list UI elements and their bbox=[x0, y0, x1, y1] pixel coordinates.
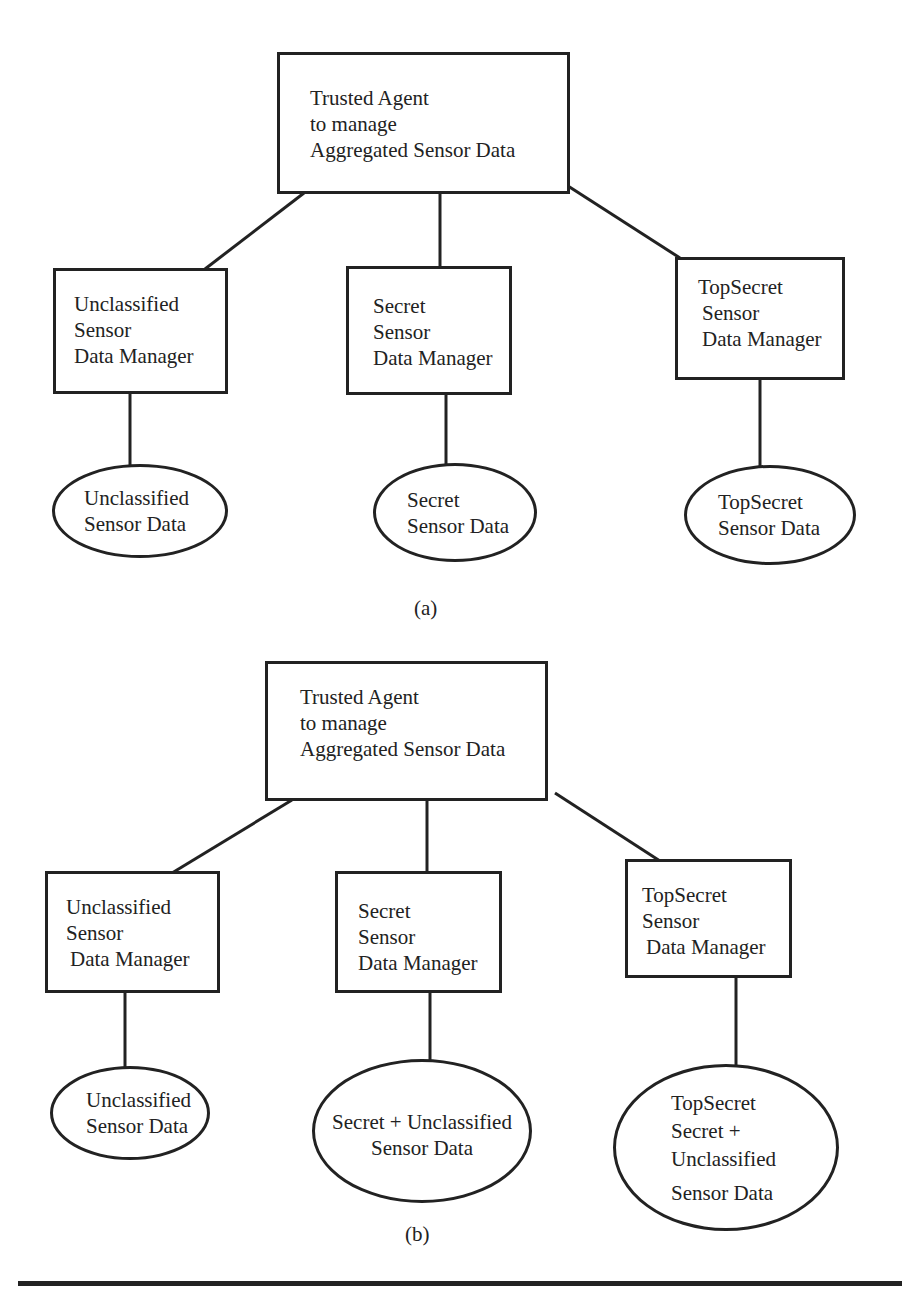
manager-label-line: Unclassified bbox=[74, 291, 194, 317]
manager-label-line: Data Manager bbox=[70, 946, 190, 972]
unclassified-data-store-a: Unclassified Sensor Data bbox=[52, 464, 228, 558]
data-store-label-line: Unclassified bbox=[671, 1145, 836, 1173]
manager-label-line: Sensor bbox=[702, 300, 822, 326]
data-store-label-line: Secret + Unclassified bbox=[315, 1109, 529, 1135]
unclassified-data-store-b: Unclassified Sensor Data bbox=[50, 1066, 210, 1160]
topsecret-secret-unclassified-data-store-b: TopSecret Secret + Unclassified Sensor D… bbox=[613, 1064, 839, 1231]
manager-label-line: Sensor bbox=[74, 317, 194, 343]
topsecret-manager-box-b: TopSecret Sensor Data Manager bbox=[625, 859, 792, 978]
trusted-agent-label-line: Trusted Agent bbox=[310, 85, 515, 111]
data-store-label-line: Sensor Data bbox=[315, 1135, 529, 1161]
manager-label-line: Sensor bbox=[358, 924, 478, 950]
data-store-label-line: Secret + bbox=[671, 1117, 836, 1145]
topsecret-data-store-a: TopSecret Sensor Data bbox=[684, 465, 856, 565]
manager-label-line: Sensor bbox=[642, 908, 766, 934]
trusted-agent-label-line: Aggregated Sensor Data bbox=[310, 137, 515, 163]
manager-label-line: Data Manager bbox=[702, 326, 822, 352]
manager-label-line: Data Manager bbox=[358, 950, 478, 976]
data-store-label-line: Sensor Data bbox=[86, 1113, 207, 1139]
bottom-rule bbox=[18, 1281, 902, 1286]
caption-b: (b) bbox=[405, 1222, 430, 1247]
topsecret-manager-box-a: TopSecret Sensor Data Manager bbox=[675, 257, 845, 380]
trusted-agent-box-a: Trusted Agent to manage Aggregated Senso… bbox=[277, 52, 570, 194]
trusted-agent-box-b: Trusted Agent to manage Aggregated Senso… bbox=[265, 661, 548, 801]
data-store-label-line: Sensor Data bbox=[84, 511, 225, 537]
manager-label-line: Secret bbox=[373, 293, 493, 319]
manager-label-line: TopSecret bbox=[642, 882, 766, 908]
trusted-agent-label-line: to manage bbox=[300, 710, 505, 736]
secret-unclassified-data-store-b: Secret + Unclassified Sensor Data bbox=[312, 1059, 532, 1203]
manager-label-line: Data Manager bbox=[74, 343, 194, 369]
data-store-label-line: TopSecret bbox=[718, 489, 853, 515]
manager-label-line: Data Manager bbox=[646, 934, 766, 960]
data-store-label-line: Sensor Data bbox=[718, 515, 853, 541]
manager-label-line: Sensor bbox=[66, 920, 190, 946]
data-store-label-line: Sensor Data bbox=[407, 513, 534, 539]
manager-label-line: Unclassified bbox=[66, 894, 190, 920]
unclassified-manager-box-b: Unclassified Sensor Data Manager bbox=[45, 871, 220, 993]
unclassified-manager-box-a: Unclassified Sensor Data Manager bbox=[53, 268, 228, 394]
data-store-label-line: Sensor Data bbox=[671, 1179, 836, 1207]
manager-label-line: Sensor bbox=[373, 319, 493, 345]
data-store-label-line: Unclassified bbox=[84, 485, 225, 511]
caption-a: (a) bbox=[414, 596, 437, 621]
secret-manager-box-a: Secret Sensor Data Manager bbox=[346, 266, 512, 395]
manager-label-line: Data Manager bbox=[373, 345, 493, 371]
secret-data-store-a: Secret Sensor Data bbox=[373, 463, 537, 562]
data-store-label-line: Unclassified bbox=[86, 1087, 207, 1113]
data-store-label-line: Secret bbox=[407, 487, 534, 513]
data-store-label-line: TopSecret bbox=[671, 1089, 836, 1117]
trusted-agent-label-line: to manage bbox=[310, 111, 515, 137]
manager-label-line: TopSecret bbox=[698, 274, 822, 300]
secret-manager-box-b: Secret Sensor Data Manager bbox=[335, 871, 502, 993]
trusted-agent-label-line: Trusted Agent bbox=[300, 684, 505, 710]
trusted-agent-label-line: Aggregated Sensor Data bbox=[300, 736, 505, 762]
manager-label-line: Secret bbox=[358, 898, 478, 924]
